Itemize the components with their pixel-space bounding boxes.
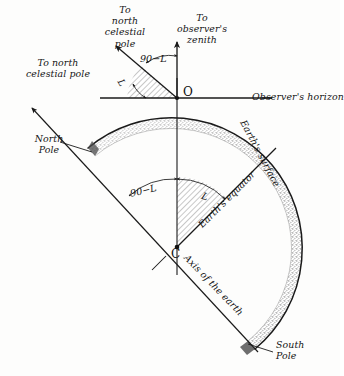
axis-stub-at-center xyxy=(152,256,166,270)
label-to-observers-zenith: To observer's zenith xyxy=(160,12,244,46)
label-south-pole: South Pole xyxy=(276,339,336,361)
point-label-center: C xyxy=(171,247,180,261)
earths-surface-outer-arc xyxy=(88,118,302,349)
label-observers-horizon: Observer's horizon xyxy=(252,91,344,102)
label-to-north-celestial-pole-left: To north celestial pole xyxy=(2,57,114,79)
point-label-observer: O xyxy=(183,85,193,99)
angle-wedge-at-observer xyxy=(127,66,177,98)
label-to-north-celestial-pole-upper: To north celestial pole xyxy=(82,4,168,49)
angle-label-90-minus-L-at-observer: 90−L xyxy=(140,53,167,64)
label-north-pole: North Pole xyxy=(22,133,76,155)
observer-point-dot xyxy=(175,96,179,100)
